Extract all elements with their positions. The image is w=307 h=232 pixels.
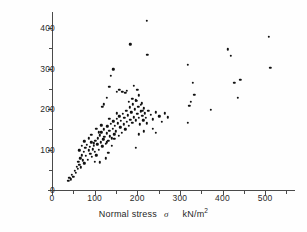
scatter-plot-figure: 0100200300400500 0100200300400 Normal st… xyxy=(0,0,307,232)
data-point xyxy=(93,144,95,146)
data-point xyxy=(112,120,114,122)
data-point xyxy=(99,134,101,136)
data-point xyxy=(129,118,131,120)
data-point xyxy=(90,134,92,136)
data-point xyxy=(209,109,211,111)
data-point xyxy=(78,149,80,151)
data-point xyxy=(144,112,146,114)
data-point xyxy=(100,124,102,126)
data-point xyxy=(126,90,128,92)
data-point xyxy=(146,54,148,56)
data-point xyxy=(128,101,130,103)
data-point xyxy=(80,166,82,168)
data-point xyxy=(107,139,109,141)
data-point xyxy=(134,119,136,121)
data-point xyxy=(269,67,271,69)
data-point xyxy=(134,146,136,148)
data-point xyxy=(105,132,107,134)
data-point xyxy=(102,138,104,140)
data-point xyxy=(96,143,98,145)
data-point xyxy=(103,128,105,130)
data-point xyxy=(122,113,124,115)
data-point xyxy=(110,75,112,77)
data-point xyxy=(124,128,126,130)
data-point xyxy=(116,91,118,93)
data-point xyxy=(167,116,169,118)
data-point xyxy=(132,103,134,105)
data-point xyxy=(129,43,131,45)
data-point xyxy=(123,117,125,119)
data-point xyxy=(93,151,95,153)
data-point xyxy=(105,97,107,99)
data-point xyxy=(103,103,105,105)
data-point xyxy=(126,121,128,123)
data-point xyxy=(133,84,135,86)
data-point xyxy=(113,133,115,135)
data-point xyxy=(186,122,188,124)
data-point xyxy=(193,94,195,96)
data-point xyxy=(158,115,160,117)
data-point xyxy=(134,108,136,110)
data-point xyxy=(119,126,121,128)
x-axis-units: kN/m xyxy=(183,209,205,219)
data-point xyxy=(191,82,193,84)
data-point xyxy=(114,124,116,126)
data-point xyxy=(84,147,86,149)
data-point xyxy=(93,160,95,162)
data-point xyxy=(111,127,113,129)
data-point xyxy=(142,119,144,121)
data-point xyxy=(145,122,147,124)
data-point xyxy=(87,137,89,139)
data-point xyxy=(76,168,78,170)
data-point xyxy=(85,155,87,157)
data-point xyxy=(87,158,89,160)
data-point xyxy=(97,137,99,139)
data-point xyxy=(130,111,132,113)
data-point xyxy=(72,175,74,177)
data-point xyxy=(82,150,84,152)
data-point xyxy=(124,92,126,94)
data-point xyxy=(186,63,188,65)
data-point xyxy=(99,161,101,163)
x-axis-title-text: Normal stress xyxy=(99,209,157,219)
data-point xyxy=(230,54,232,56)
data-point xyxy=(133,116,135,118)
data-point xyxy=(110,144,112,146)
data-point xyxy=(239,79,241,81)
data-point xyxy=(141,114,143,116)
data-point xyxy=(70,178,72,180)
data-point xyxy=(143,130,145,132)
data-point xyxy=(138,133,140,135)
data-point xyxy=(128,106,130,108)
data-point xyxy=(147,110,149,112)
data-point xyxy=(83,140,85,142)
data-point xyxy=(105,157,107,159)
x-axis-title: Normal stressσkN/m2 xyxy=(0,207,307,219)
data-point xyxy=(163,112,165,114)
data-point xyxy=(108,86,110,88)
data-point xyxy=(116,122,118,124)
data-point xyxy=(95,154,97,156)
data-point xyxy=(101,106,103,108)
data-point-layer xyxy=(0,0,307,232)
data-point xyxy=(88,146,90,148)
data-point xyxy=(94,139,96,141)
data-point xyxy=(155,131,157,133)
data-point xyxy=(87,149,89,151)
data-point xyxy=(83,162,85,164)
data-point xyxy=(155,111,157,113)
data-point xyxy=(112,68,114,70)
data-point xyxy=(150,114,152,116)
data-point xyxy=(100,131,102,133)
data-point xyxy=(151,118,153,120)
data-point xyxy=(138,94,140,96)
data-point xyxy=(127,114,129,116)
data-point xyxy=(161,121,163,123)
data-point xyxy=(81,154,83,156)
data-point xyxy=(128,125,130,127)
data-point xyxy=(121,131,123,133)
data-point xyxy=(117,135,119,137)
data-point xyxy=(81,145,83,147)
data-point xyxy=(226,48,228,50)
data-point xyxy=(101,145,103,147)
